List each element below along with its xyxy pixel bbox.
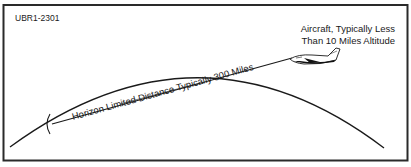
horizon-distance-diagram: UBR1-2301 Horizon Limited Distance Typic… [0, 0, 411, 167]
aircraft-label-line1: Aircraft, Typically Less [301, 23, 396, 34]
aircraft-label-line2: Than 10 Miles Altitude [302, 35, 395, 46]
figure-id-label: UBR1-2301 [15, 13, 60, 23]
